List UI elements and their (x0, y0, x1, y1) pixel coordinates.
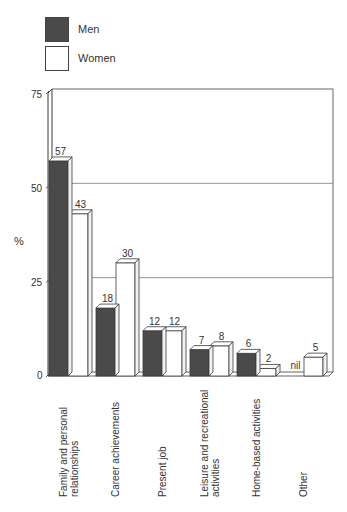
x-label-2: Present job (157, 446, 168, 497)
bar-men-4-front (237, 353, 256, 376)
bar-women-0-side (88, 210, 92, 376)
x-label-0: Family and personalrelationships (58, 407, 80, 497)
bar-women-5-side (323, 353, 327, 376)
x-label-line1: Career achievements (110, 402, 121, 497)
bar-women-3-side (229, 342, 233, 376)
bar-chart (0, 0, 347, 512)
bar-men-1-side (115, 304, 119, 376)
bar-men-0-front (49, 161, 68, 376)
x-label-3: Leisure and recreationalactivities (199, 390, 221, 497)
x-label-1: Career achievements (110, 402, 121, 497)
bar-men-3-side (209, 346, 213, 376)
x-label-line1: Other (298, 472, 309, 497)
x-label-line2: relationships (69, 407, 80, 497)
value-label-men-1: 18 (96, 293, 119, 304)
bar-men-0-side (68, 157, 72, 376)
value-label-women-0: 43 (69, 199, 92, 210)
bar-men-2-side (162, 327, 166, 376)
x-label-line1: Family and personal (58, 407, 69, 497)
value-label-women-5: 5 (304, 342, 327, 353)
value-label-men-5: nil (284, 360, 307, 371)
bar-men-3-front (190, 350, 209, 376)
x-label-line2: activities (210, 390, 221, 497)
bar-women-1-side (135, 259, 139, 376)
value-label-women-1: 30 (116, 248, 139, 259)
bar-women-2-side (182, 327, 186, 376)
x-label-line1: Leisure and recreational (199, 390, 210, 497)
value-label-women-2: 12 (163, 316, 186, 327)
x-label-5: Other (298, 472, 309, 497)
value-label-women-3: 8 (210, 331, 233, 342)
bar-men-2-front (143, 331, 162, 376)
x-label-line1: Present job (157, 446, 168, 497)
x-label-line1: Home-based activities (251, 399, 262, 497)
x-label-4: Home-based activities (251, 399, 262, 497)
value-label-men-4: 6 (237, 338, 260, 349)
value-label-men-0: 57 (49, 146, 72, 157)
bar-men-1-front (96, 308, 115, 376)
value-label-women-4: 2 (257, 353, 280, 364)
